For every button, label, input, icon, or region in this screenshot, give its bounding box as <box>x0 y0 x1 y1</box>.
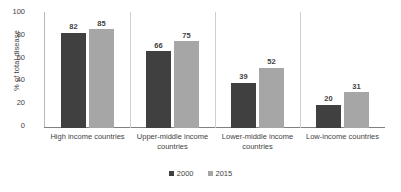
bar-group-lower-middle-income: 39 52 <box>215 12 300 128</box>
y-tick-label-80: 80 <box>3 31 25 39</box>
bar-2000-low-income[interactable]: 20 <box>316 12 341 128</box>
bar-2015-high-income[interactable]: 85 <box>89 12 114 128</box>
bar-rect[interactable] <box>174 41 199 128</box>
legend-swatch-icon <box>208 171 213 176</box>
bar-rect[interactable] <box>89 29 114 128</box>
bar-2015-low-income[interactable]: 31 <box>344 12 369 128</box>
bar-rect[interactable] <box>316 105 341 128</box>
bar-value-label: 20 <box>324 95 332 103</box>
legend-item-2000[interactable]: 2000 <box>169 170 194 178</box>
bar-rect[interactable] <box>344 92 369 128</box>
bar-rect[interactable] <box>259 68 284 128</box>
bar-groups: 82 85 66 75 39 <box>45 12 385 128</box>
bar-group-upper-middle-income: 66 75 <box>130 12 215 128</box>
bar-2000-lower-middle-income[interactable]: 39 <box>231 12 256 128</box>
legend-label: 2015 <box>216 170 233 178</box>
bar-group-low-income: 20 31 <box>300 12 385 128</box>
x-axis-category-labels: High income countries Upper-middle incom… <box>45 132 385 160</box>
bar-value-label: 82 <box>69 23 77 31</box>
y-tick-label-40: 40 <box>3 76 25 84</box>
x-label-upper-middle-income: Upper-middle income countries <box>130 132 215 160</box>
y-tick-label-0: 0 <box>3 122 25 130</box>
bar-value-label: 31 <box>352 83 360 91</box>
bar-value-label: 52 <box>267 58 275 66</box>
bar-group-high-income: 82 85 <box>45 12 130 128</box>
bar-value-label: 66 <box>154 42 162 50</box>
legend-item-2015[interactable]: 2015 <box>208 170 233 178</box>
bar-value-label: 85 <box>97 20 105 28</box>
y-tick-label-60: 60 <box>3 54 25 62</box>
legend-label: 2000 <box>177 170 194 178</box>
y-tick-label-20: 20 <box>3 99 25 107</box>
bar-rect[interactable] <box>146 51 171 128</box>
bar-2000-high-income[interactable]: 82 <box>61 12 86 128</box>
x-label-low-income: Low-income countries <box>300 132 385 160</box>
bar-chart: % of total disease 100 80 60 40 20 0 82 … <box>0 0 401 192</box>
plot-area: 100 80 60 40 20 0 82 85 66 <box>44 12 385 128</box>
bar-value-label: 75 <box>182 32 190 40</box>
x-label-high-income: High income countries <box>45 132 130 160</box>
bar-rect[interactable] <box>61 33 86 128</box>
bar-2015-upper-middle-income[interactable]: 75 <box>174 12 199 128</box>
y-tick-label-100: 100 <box>3 8 25 16</box>
chart-legend: 2000 2015 <box>0 170 401 178</box>
bar-2015-lower-middle-income[interactable]: 52 <box>259 12 284 128</box>
bar-2000-upper-middle-income[interactable]: 66 <box>146 12 171 128</box>
bar-value-label: 39 <box>239 73 247 81</box>
legend-swatch-icon <box>169 171 174 176</box>
x-label-lower-middle-income: Lower-middle income countries <box>215 132 300 160</box>
bar-rect[interactable] <box>231 83 256 128</box>
